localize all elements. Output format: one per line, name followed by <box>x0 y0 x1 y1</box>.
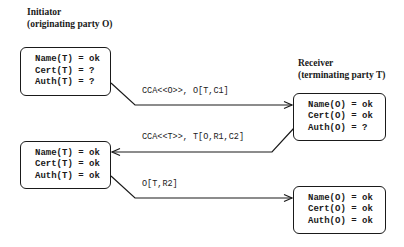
message-label-1: CCA<<O>>, O[T,C1] <box>142 86 229 96</box>
state-cert: Cert(O) = ok <box>308 111 385 123</box>
state-auth: Auth(O) = ? <box>308 123 385 135</box>
state-auth: Auth(T) = ok <box>35 171 110 183</box>
state-auth: Auth(O) = ok <box>308 216 385 228</box>
initiator-state-box-2: Name(T) = ok Cert(T) = ok Auth(T) = ok <box>20 141 111 189</box>
state-cert: Cert(T) = ok <box>35 159 110 171</box>
state-cert: Cert(O) = ok <box>308 204 385 216</box>
arrow-message-3 <box>111 176 292 198</box>
state-name: Name(O) = ok <box>308 100 385 112</box>
initiator-state-box-1: Name(T) = ok Cert(T) = ? Auth(T) = ? <box>20 47 111 96</box>
message-label-2: CCA<<T>>, T[O,R1,C2] <box>142 132 244 142</box>
state-name: Name(T) = ok <box>35 54 110 66</box>
state-name: Name(T) = ok <box>35 148 110 160</box>
state-cert: Cert(T) = ? <box>35 66 110 78</box>
state-auth: Auth(T) = ? <box>35 77 110 89</box>
receiver-state-box-2: Name(O) = ok Cert(O) = ok Auth(O) = ok <box>293 186 386 234</box>
state-name: Name(O) = ok <box>308 193 385 205</box>
protocol-diagram: Initiator (originating party O) Receiver… <box>0 0 404 247</box>
receiver-state-box-1: Name(O) = ok Cert(O) = ok Auth(O) = ? <box>293 93 386 141</box>
message-label-3: O[T,R2] <box>142 179 178 189</box>
